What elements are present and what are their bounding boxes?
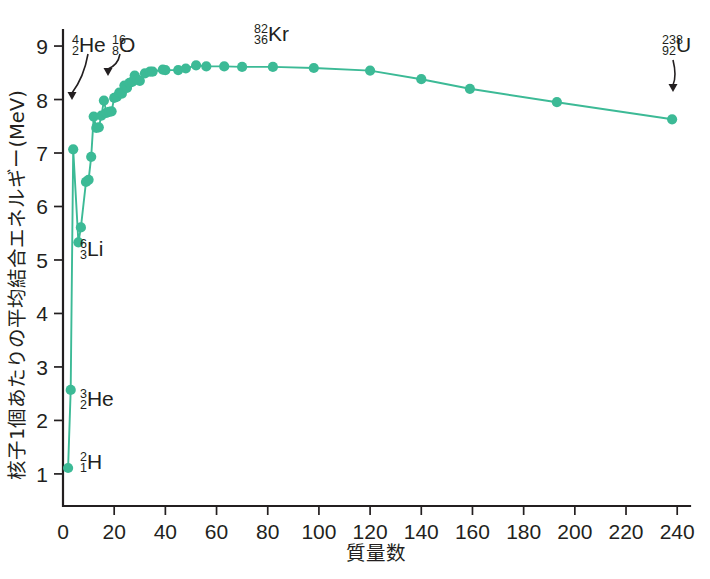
data-point [68, 144, 78, 154]
x-tick-label: 120 [353, 520, 388, 543]
x-tick-label: 0 [57, 520, 69, 543]
y-tick-label: 6 [36, 195, 48, 218]
annotation-hydrogen-2: 21H [80, 450, 102, 475]
data-point [667, 114, 677, 124]
annotation-helium-3: 32He [80, 387, 114, 412]
axes [63, 30, 690, 506]
annotation-uranium-238: 23892U [662, 33, 691, 92]
data-point [201, 61, 211, 71]
y-tick-label: 1 [36, 463, 48, 486]
data-point [84, 175, 94, 185]
y-axis-ticks: 123456789 [36, 35, 63, 486]
x-tick-label: 20 [103, 520, 126, 543]
data-point [148, 67, 158, 77]
nuclide-label: 63Li [80, 237, 103, 262]
annotation-arrow-head [104, 68, 113, 76]
y-tick-label: 3 [36, 356, 48, 379]
data-point [219, 61, 229, 71]
y-tick-label: 9 [36, 35, 48, 58]
data-point [160, 65, 170, 75]
data-point [191, 60, 201, 70]
nuclide-label: 168O [112, 33, 135, 58]
binding-energy-chart: 123456789 020406080100120140160180200220… [0, 0, 710, 579]
y-tick-label: 2 [36, 409, 48, 432]
data-point [63, 463, 73, 473]
data-curve [68, 65, 672, 468]
x-tick-label: 60 [205, 520, 228, 543]
x-tick-label: 220 [608, 520, 643, 543]
data-point [107, 106, 117, 116]
data-points [63, 60, 677, 473]
x-axis-ticks: 020406080100120140160180200220240 [57, 506, 695, 543]
data-point [99, 96, 109, 106]
data-point [181, 63, 191, 73]
annotation-arrow-line [673, 60, 675, 85]
nuclide-annotations: 42He168O63Li32He21H8236Kr23892U [68, 22, 692, 475]
binding-energy-line [68, 65, 672, 468]
x-tick-label: 100 [301, 520, 336, 543]
data-point [465, 84, 475, 94]
data-point [94, 122, 104, 132]
annotation-lithium-6: 63Li [80, 237, 103, 262]
x-tick-label: 240 [660, 520, 695, 543]
nuclide-label: 32He [80, 387, 114, 412]
annotation-arrow-line [72, 54, 88, 93]
nuclide-label: 21H [80, 450, 102, 475]
data-point [416, 74, 426, 84]
y-tick-label: 5 [36, 249, 48, 272]
data-point [86, 152, 96, 162]
annotation-oxygen-16: 168O [104, 33, 136, 76]
x-tick-label: 160 [455, 520, 490, 543]
data-point [268, 62, 278, 72]
x-tick-label: 40 [154, 520, 177, 543]
nuclide-label: 23892U [662, 33, 691, 58]
annotation-arrow-head [68, 92, 77, 100]
data-point [237, 62, 247, 72]
x-axis-title: 質量数 [346, 542, 406, 565]
x-tick-label: 200 [557, 520, 592, 543]
x-tick-label: 140 [404, 520, 439, 543]
nuclide-label: 8236Kr [254, 22, 289, 47]
y-tick-label: 7 [36, 142, 48, 165]
y-tick-label: 4 [36, 302, 48, 325]
annotation-arrow-head [669, 84, 678, 92]
data-point [309, 63, 319, 73]
data-point [552, 97, 562, 107]
chart-svg: 123456789 020406080100120140160180200220… [0, 0, 710, 579]
annotation-krypton-82: 8236Kr [254, 22, 289, 47]
annotation-helium-4: 42He [68, 33, 106, 100]
data-point [365, 66, 375, 76]
data-point [76, 222, 86, 232]
nuclide-label: 42He [72, 33, 106, 58]
y-tick-label: 8 [36, 89, 48, 112]
data-point [66, 385, 76, 395]
axis-lines [63, 30, 690, 506]
y-axis-title: 核子1個あたりの平均結合エネルギー(MeV) [6, 90, 29, 480]
x-tick-label: 180 [506, 520, 541, 543]
x-tick-label: 80 [256, 520, 279, 543]
